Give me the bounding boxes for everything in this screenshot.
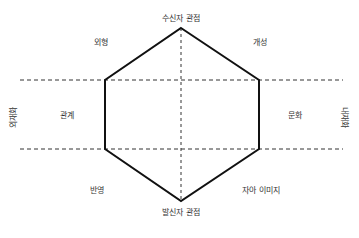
label-lower-right: 자아 이미지	[242, 187, 280, 195]
label-top: 수신자 관점	[162, 15, 200, 23]
hexagon-outline	[105, 28, 259, 201]
label-upper-left: 외형	[94, 39, 108, 47]
label-middle-right: 문화	[288, 112, 302, 120]
label-middle-left: 관계	[60, 112, 74, 120]
label-side-left: 외재화	[10, 107, 18, 128]
label-lower-left: 반영	[90, 187, 104, 195]
label-bottom: 발신자 관점	[162, 209, 200, 217]
identity-prism-diagram	[0, 0, 359, 238]
label-side-right: 내재화	[340, 107, 348, 128]
label-upper-right: 개성	[253, 39, 267, 47]
